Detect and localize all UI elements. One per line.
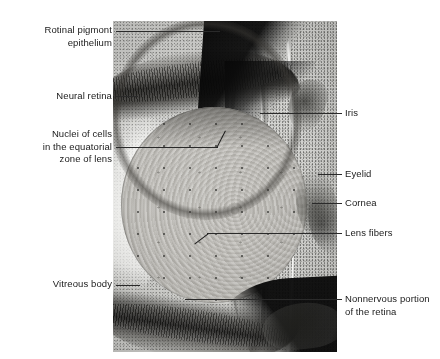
leader-nonnervous-retina [185,299,342,300]
label-neural-retina: Neural retina [8,90,112,103]
label-retinal-pigment-epithelium: Rotinal pigmont epithelium [8,24,112,49]
leader-nuclei-equatorial-zone [116,147,218,148]
label-eyelid: Eyelid [345,168,437,181]
histology-figure: Rotinal pigmont epithelium Neural retina… [0,0,440,359]
leader-vitreous-body [116,285,140,286]
leader-iris [260,113,342,114]
label-nonnervous-retina: Nonnervous portion of the retina [345,293,439,318]
eye-histology-micrograph [113,21,337,352]
micrograph-vignette [113,21,337,352]
label-iris: Iris [345,107,437,120]
leader-retinal-pigment-epithelium [116,31,220,32]
label-lens-fibers: Lens fibers [345,227,437,240]
label-nuclei-equatorial-zone: Nuclei of cells in the equatorial zone o… [4,128,112,166]
leader-cornea [312,203,342,204]
leader-neural-retina [116,96,138,97]
label-cornea: Cornea [345,197,437,210]
leader-eyelid [318,174,342,175]
leader-lens-fibers [207,233,342,234]
label-vitreous-body: Vitreous body [8,278,112,291]
